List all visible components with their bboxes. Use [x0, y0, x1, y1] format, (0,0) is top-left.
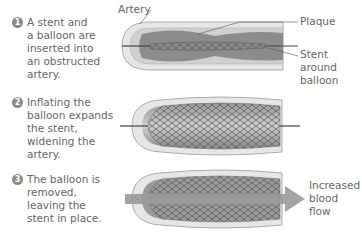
step-text: Inflating the balloon expands the stent,…: [27, 96, 113, 161]
step-1: 1 A stent and a balloon are inserted int…: [12, 16, 100, 81]
step-3: 3 The balloon is removed, leaving the st…: [12, 173, 102, 225]
artery-expanded: [120, 97, 300, 155]
step-number-badge: 3: [12, 174, 23, 185]
label-increased-blood-flow: Increased blood flow: [309, 179, 360, 218]
step-text: A stent and a balloon are inserted into …: [27, 16, 100, 81]
step-number-badge: 2: [12, 97, 23, 108]
label-stent-around-balloon: Stent around balloon: [300, 48, 338, 87]
label-artery: Artery: [118, 3, 151, 16]
label-plaque: Plaque: [300, 15, 335, 28]
step-number-badge: 1: [12, 17, 23, 28]
artery-stent-in-place: [125, 170, 305, 228]
step-2: 2 Inflating the balloon expands the sten…: [12, 96, 113, 161]
step-text: The balloon is removed, leaving the sten…: [27, 173, 102, 225]
artery-obstructed: [122, 10, 298, 70]
